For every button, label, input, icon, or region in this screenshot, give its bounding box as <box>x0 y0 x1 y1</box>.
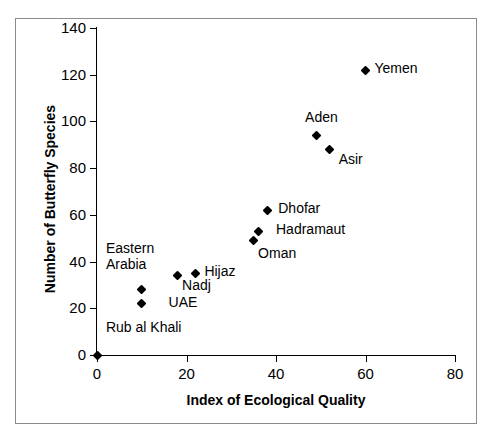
data-point-marker <box>173 271 183 281</box>
x-axis-tick-label: 80 <box>435 366 475 381</box>
data-point-label: Rub al Khali <box>106 320 182 336</box>
x-axis-tick-label: 40 <box>256 366 296 381</box>
data-point-label: Yemen <box>374 61 417 77</box>
x-axis-tick <box>366 356 367 362</box>
data-point-label: Eastern <box>106 241 154 257</box>
y-axis-tick <box>90 308 96 309</box>
data-point-marker <box>262 205 272 215</box>
data-point-label: Oman <box>258 246 296 262</box>
x-axis-tick-label: 0 <box>77 366 117 381</box>
y-axis-tick <box>90 215 96 216</box>
data-point-marker <box>253 226 263 236</box>
plot-area: Rub al KhaliEasternArabiaUAENadjHijazOma… <box>97 28 455 355</box>
chart-figure: 020406080100120140 020406080 Rub al Khal… <box>0 0 493 442</box>
data-point-marker <box>361 65 371 75</box>
data-point-label: Aden <box>305 110 338 126</box>
y-axis-tick <box>90 28 96 29</box>
data-point-label: Hijaz <box>204 264 235 280</box>
data-point-label: Asir <box>339 152 363 168</box>
x-axis-tick-label: 20 <box>167 366 207 381</box>
y-axis-tick <box>90 121 96 122</box>
y-axis-tick-label: 140 <box>50 20 86 35</box>
x-axis-tick <box>455 356 456 362</box>
data-point-label: Dhofar <box>278 201 320 217</box>
y-axis-tick <box>90 262 96 263</box>
data-point-marker <box>325 145 335 155</box>
data-point-marker <box>137 299 147 309</box>
x-axis-tick-label: 60 <box>346 366 386 381</box>
data-point-marker <box>311 130 321 140</box>
y-axis-tick <box>90 168 96 169</box>
x-axis-tick <box>276 356 277 362</box>
data-point-label: Hadramaut <box>276 222 345 238</box>
x-axis-title: Index of Ecological Quality <box>96 392 456 408</box>
data-point-label: Arabia <box>106 257 146 273</box>
data-point-marker <box>137 285 147 295</box>
y-axis-tick <box>90 75 96 76</box>
data-point-marker <box>249 236 259 246</box>
data-point-label: UAE <box>169 295 198 311</box>
y-axis-title: Number of Butterfly Species <box>42 34 58 364</box>
data-point-label: Nadj <box>182 278 211 294</box>
x-axis-tick <box>187 356 188 362</box>
